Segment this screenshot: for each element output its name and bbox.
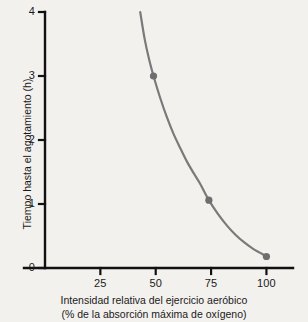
data-point-markers <box>150 72 270 260</box>
exhaustion-time-chart: 01234 255075100 Tiempo hasta el agotamie… <box>0 0 308 322</box>
y-tick-label: 0 <box>5 261 35 273</box>
data-point <box>263 253 270 260</box>
chart-plot-area <box>0 0 308 322</box>
axes-group <box>24 12 293 268</box>
y-tick-label: 4 <box>5 5 35 17</box>
data-point <box>205 197 212 204</box>
x-tick-label: 25 <box>80 277 120 289</box>
data-point <box>150 72 157 79</box>
x-axis-title-line1: Intensidad relativa del ejercicio aeróbi… <box>0 294 308 308</box>
y-axis-title: Tiempo hasta el agotamiento (h) <box>21 59 33 249</box>
x-tick-label: 75 <box>191 277 231 289</box>
x-tick-label: 50 <box>136 277 176 289</box>
x-tick-label: 100 <box>246 277 286 289</box>
x-axis-title: Intensidad relativa del ejercicio aeróbi… <box>0 294 308 321</box>
x-axis-title-line2: (% de la absorción máxima de oxígeno) <box>0 308 308 322</box>
data-curve <box>140 12 266 256</box>
